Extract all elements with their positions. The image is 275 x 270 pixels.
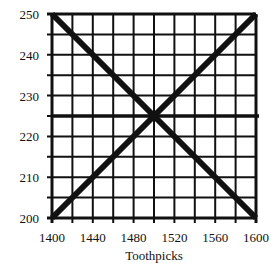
y-tick-label: 200 <box>20 211 40 226</box>
x-tick-label: 1440 <box>80 230 106 245</box>
y-tick-label: 220 <box>20 129 40 144</box>
x-axis-title: Toothpicks <box>125 248 183 263</box>
x-tick-label: 1400 <box>39 230 65 245</box>
chart: 140014401480152015601600 200210220230240… <box>0 0 275 270</box>
y-tick-label: 240 <box>20 48 40 63</box>
y-tick-label: 230 <box>20 89 40 104</box>
x-tick-label: 1480 <box>121 230 147 245</box>
y-tick-label: 210 <box>20 170 40 185</box>
x-axis-tick-labels: 140014401480152015601600 <box>39 230 269 245</box>
y-tick-label: 250 <box>20 7 40 22</box>
data-series <box>52 14 259 218</box>
x-tick-label: 1520 <box>161 230 187 245</box>
x-tick-label: 1560 <box>202 230 228 245</box>
x-tick-label: 1600 <box>243 230 269 245</box>
y-axis-tick-labels: 200210220230240250 <box>20 7 40 226</box>
